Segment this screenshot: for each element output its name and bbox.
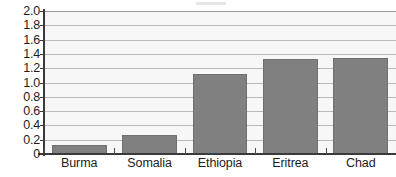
gridline [44,11,396,12]
y-axis-tick-label: 1.6 [2,33,40,46]
gridline [44,40,396,41]
y-axis-tick-mark [40,40,45,41]
gridline [44,25,396,26]
bar-chart: 2.01.81.61.41.21.00.80.60.40.20 BurmaSom… [0,0,396,177]
y-axis-tick-label: 0.6 [2,105,40,118]
y-axis-tick-mark [40,25,45,26]
x-axis-label-burma: Burma [44,157,114,171]
bar-ethiopia[interactable] [193,74,248,154]
x-axis-label-eritrea: Eritrea [255,157,325,171]
bar-eritrea[interactable] [263,59,318,154]
y-axis-tick-mark [40,154,45,155]
x-axis-label-somalia: Somalia [114,157,184,171]
x-axis-tick-mark [255,148,256,154]
y-axis-tick-mark [40,11,45,12]
x-axis-line [38,153,396,155]
y-axis-tick-mark [40,97,45,98]
y-axis-tick-mark [40,54,45,55]
y-axis-tick-mark [40,68,45,69]
y-axis-tick-mark [40,140,45,141]
x-axis-tick-mark [114,148,115,154]
y-axis-tick-mark [40,125,45,126]
y-axis-tick-labels: 2.01.81.61.41.21.00.80.60.40.20 [0,0,40,177]
y-axis-tick-label: 0 [2,148,40,161]
y-axis-tick-label: 1.8 [2,19,40,32]
y-axis-tick-label: 0.4 [2,119,40,132]
x-axis-tick-mark [185,148,186,154]
y-axis-tick-label: 0.2 [2,133,40,146]
y-axis-tick-label: 2.0 [2,5,40,18]
scan-artifact [196,2,226,5]
y-axis-tick-label: 1.0 [2,76,40,89]
plot-area [44,11,396,154]
y-axis-tick-label: 1.2 [2,62,40,75]
gridline [44,54,396,55]
y-axis-tick-mark [40,83,45,84]
bar-somalia[interactable] [122,135,177,154]
y-axis-tick-label: 0.8 [2,91,40,104]
x-axis-label-ethiopia: Ethiopia [185,157,255,171]
y-axis-tick-mark [40,111,45,112]
bar-chad[interactable] [333,58,388,154]
x-axis-label-chad: Chad [326,157,396,171]
x-axis-tick-mark [326,148,327,154]
y-axis-tick-label: 1.4 [2,48,40,61]
